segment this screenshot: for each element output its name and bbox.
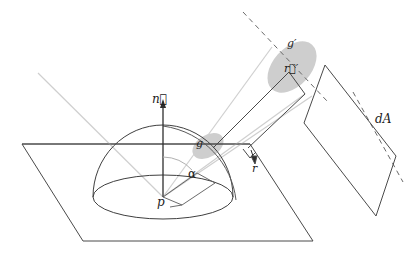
label-normal-vector: n⃗ xyxy=(152,93,167,105)
incident-ray-left xyxy=(38,73,163,197)
beam-edge-lower xyxy=(248,94,305,148)
label-solid-angle-g: g xyxy=(196,138,203,149)
beam-edge-upper xyxy=(213,72,289,148)
area-element-plane-group xyxy=(304,65,396,216)
label-distance-r: r xyxy=(252,163,257,174)
diagram-svg xyxy=(0,0,418,257)
label-vector-r-prime: r⃗′ xyxy=(284,63,298,74)
dashed-axis-secondary xyxy=(353,92,403,182)
label-solid-angle-g-prime: g′ xyxy=(287,38,297,49)
normal-vector-group xyxy=(160,99,166,197)
dashed-axes xyxy=(243,12,403,182)
figure-canvas: n⃗ g g′ r⃗′ r α p dA xyxy=(0,0,418,257)
area-element-plane xyxy=(304,65,396,216)
patch-quad-p-tick xyxy=(170,205,182,207)
ground-plane xyxy=(22,144,313,241)
label-area-element-dA: dA xyxy=(375,113,391,125)
cone-edge-lower xyxy=(163,96,312,197)
label-angle-alpha: α xyxy=(188,168,196,180)
label-point-p: p xyxy=(157,196,165,208)
